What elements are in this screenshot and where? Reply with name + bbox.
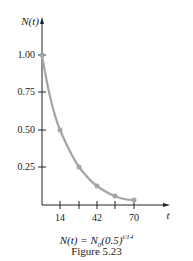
decay-curve bbox=[42, 55, 134, 200]
y-tick-label: 1.00 bbox=[18, 49, 36, 60]
y-tick-label: 0.50 bbox=[18, 124, 36, 135]
x-axis-arrow-icon bbox=[163, 203, 170, 207]
data-point bbox=[77, 165, 82, 170]
y-axis-arrow-icon bbox=[40, 17, 44, 24]
data-point bbox=[113, 194, 118, 199]
data-point bbox=[132, 198, 137, 203]
x-tick-label: 14 bbox=[55, 212, 65, 223]
decay-chart: 1.00 0.75 0.50 0.25 14 42 70 N(t) t bbox=[0, 0, 193, 261]
data-point bbox=[58, 128, 63, 133]
y-axis-title: N(t) bbox=[20, 15, 39, 28]
y-tick-label: 0.25 bbox=[18, 161, 36, 172]
data-point bbox=[40, 53, 45, 58]
data-point bbox=[95, 184, 100, 189]
x-tick-label: 42 bbox=[92, 212, 102, 223]
x-axis-title: t bbox=[166, 209, 170, 221]
data-points bbox=[40, 53, 137, 203]
x-tick-label: 70 bbox=[129, 212, 139, 223]
figure-caption: Figure 5.23 bbox=[0, 245, 193, 257]
y-tick-label: 0.75 bbox=[18, 86, 36, 97]
